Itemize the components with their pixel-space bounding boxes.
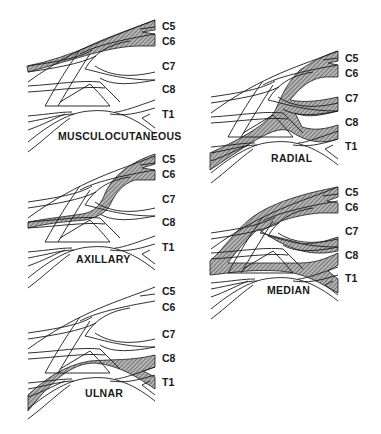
root-label-c7: C7 [345, 226, 358, 237]
root-label-c5: C5 [162, 286, 175, 297]
root-label-c8: C8 [345, 250, 358, 261]
root-label-c6: C6 [345, 68, 358, 79]
root-label-c6: C6 [162, 169, 175, 180]
root-label-c8: C8 [345, 117, 358, 128]
panel-radial: C5 C6 C7 C8 T1 RADIAL [190, 45, 381, 175]
root-label-c6: C6 [162, 36, 175, 47]
root-label-c5: C5 [162, 154, 175, 165]
root-label-t1: T1 [162, 377, 174, 388]
root-label-c6: C6 [345, 202, 358, 213]
nerve-label-median: MEDIAN [267, 285, 310, 296]
root-label-t1: T1 [345, 141, 357, 152]
root-label-c7: C7 [345, 93, 358, 104]
panel-musculocutaneous: C5 C6 C7 C8 T1 MUSCULOCUTANEOUS [0, 14, 200, 144]
root-label-t1: T1 [345, 273, 357, 284]
nerve-label-ulnar: ULNAR [85, 388, 123, 399]
plexus-diagram-musculocutaneous [0, 14, 200, 144]
nerve-label-axillary: AXILLARY [76, 254, 131, 265]
root-label-c7: C7 [162, 61, 175, 72]
root-label-c5: C5 [345, 53, 358, 64]
root-label-t1: T1 [162, 109, 174, 120]
root-label-c5: C5 [162, 21, 175, 32]
root-label-c8: C8 [162, 84, 175, 95]
root-label-c7: C7 [162, 329, 175, 340]
root-label-c6: C6 [162, 302, 175, 313]
root-label-c8: C8 [162, 217, 175, 228]
panel-axillary: C5 C6 C7 C8 T1 AXILLARY [0, 150, 200, 280]
panel-ulnar: C5 C6 C7 C8 T1 ULNAR [0, 283, 200, 433]
root-label-t1: T1 [162, 242, 174, 253]
root-label-c5: C5 [345, 187, 358, 198]
root-label-c8: C8 [162, 353, 175, 364]
panel-median: C5 C6 C7 C8 T1 MEDIAN [190, 183, 381, 313]
nerve-label-radial: RADIAL [271, 153, 312, 164]
root-label-c7: C7 [162, 194, 175, 205]
nerve-label-musculocutaneous: MUSCULOCUTANEOUS [58, 131, 182, 142]
